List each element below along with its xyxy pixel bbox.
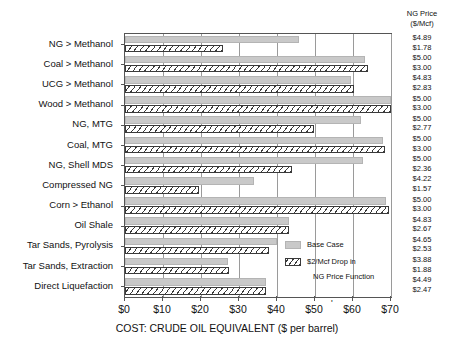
ng-price-cell-7: $4.22$1.57 xyxy=(392,174,452,194)
y-axis-label-2: UCG > Methanol xyxy=(0,73,118,93)
ng-price-cell-8: $5.00$3.00 xyxy=(392,195,452,215)
x-tick-label-50: $50 xyxy=(305,303,323,315)
ng-price-drop-12: $2.47 xyxy=(392,285,452,295)
bar-group-0 xyxy=(125,34,391,54)
y-tick-9 xyxy=(121,226,125,227)
ng-price-base-3: $5.00 xyxy=(392,94,452,104)
y-tick-10 xyxy=(121,246,125,247)
bar-group-3 xyxy=(125,95,391,115)
ng-price-base-1: $5.00 xyxy=(392,53,452,63)
x-tick-40 xyxy=(276,296,277,301)
y-tick-2 xyxy=(121,84,125,85)
ng-price-cell-0: $4.89$1.78 xyxy=(392,33,452,53)
legend-label-ng-drop-line2: NG Price Function xyxy=(313,272,397,282)
y-tick-0 xyxy=(121,44,125,45)
bar-group-8 xyxy=(125,196,391,216)
ng-price-cell-6: $5.00$2.36 xyxy=(392,154,452,174)
bar-group-5 xyxy=(125,135,391,155)
bar-ng-drop-6 xyxy=(125,166,292,174)
x-tick-label-20: $20 xyxy=(191,303,209,315)
x-tick-label-30: $30 xyxy=(229,303,247,315)
x-tick-30 xyxy=(238,296,239,301)
ng-price-drop-5: $3.00 xyxy=(392,144,452,154)
ng-price-drop-0: $1.78 xyxy=(392,43,452,53)
x-tick-60 xyxy=(352,296,353,301)
ng-price-base-0: $4.89 xyxy=(392,33,452,43)
y-axis-label-3: Wood > Methanol xyxy=(0,94,118,114)
bar-base-case-8 xyxy=(125,197,386,205)
x-axis-title: COST: CRUDE OIL EQUIVALENT ($ per barrel… xyxy=(0,322,454,334)
legend-label-base-case: Base Case xyxy=(307,240,344,250)
ng-price-drop-2: $2.83 xyxy=(392,83,452,93)
ng-price-base-8: $5.00 xyxy=(392,195,452,205)
legend-item-base-case: Base Case xyxy=(285,240,397,250)
bar-base-case-6 xyxy=(125,157,363,165)
ng-price-drop-6: $2.36 xyxy=(392,164,452,174)
y-axis-label-1: Coal > Methanol xyxy=(0,53,118,73)
ng-price-drop-7: $1.57 xyxy=(392,184,452,194)
ng-price-base-4: $5.00 xyxy=(392,114,452,124)
x-tick-10 xyxy=(162,296,163,301)
ng-price-cell-9: $4.83$2.67 xyxy=(392,215,452,235)
bar-ng-drop-10 xyxy=(125,247,269,255)
bar-base-case-3 xyxy=(125,96,391,104)
ng-price-base-10: $4.65 xyxy=(392,235,452,245)
bar-ng-drop-0 xyxy=(125,45,223,53)
bar-base-case-11 xyxy=(125,258,228,266)
ng-price-base-12: $4.49 xyxy=(392,275,452,285)
bar-base-case-10 xyxy=(125,238,277,246)
y-tick-5 xyxy=(121,145,125,146)
y-tick-11 xyxy=(121,266,125,267)
stray-tick-mark: ' xyxy=(331,298,333,308)
ng-price-cell-11: $3.88$1.88 xyxy=(392,255,452,275)
ng-price-base-7: $4.22 xyxy=(392,174,452,184)
y-tick-7 xyxy=(121,185,125,186)
y-axis-label-4: NG, MTG xyxy=(0,114,118,134)
x-tick-0 xyxy=(124,296,125,301)
y-axis-label-6: NG, Shell MDS xyxy=(0,154,118,174)
y-axis-label-5: Coal, MTG xyxy=(0,134,118,154)
x-tick-70 xyxy=(390,296,391,301)
ng-price-drop-10: $2.53 xyxy=(392,244,452,254)
bar-base-case-1 xyxy=(125,56,365,64)
bar-ng-drop-3 xyxy=(125,105,391,113)
x-tick-label-70: $70 xyxy=(381,303,399,315)
bar-ng-drop-9 xyxy=(125,226,289,234)
ng-price-drop-4: $2.77 xyxy=(392,123,452,133)
ng-price-column-header: NG Price ($/Mcf) xyxy=(392,9,452,29)
x-tick-label-60: $60 xyxy=(343,303,361,315)
y-tick-6 xyxy=(121,165,125,166)
y-tick-1 xyxy=(121,64,125,65)
ng-price-drop-3: $3.00 xyxy=(392,103,452,113)
chart-legend: Base Case $2/Mcf Drop in NG Price Functi… xyxy=(285,240,397,282)
ng-price-base-5: $5.00 xyxy=(392,134,452,144)
ng-price-base-6: $5.00 xyxy=(392,154,452,164)
ng-price-cell-4: $5.00$2.77 xyxy=(392,114,452,134)
y-axis-label-10: Tar Sands, Pyrolysis xyxy=(0,235,118,255)
ng-price-drop-9: $2.67 xyxy=(392,224,452,234)
bar-ng-drop-5 xyxy=(125,146,385,154)
x-axis-tick-labels: $0$10$20$30$40$50$60$70 xyxy=(0,303,454,319)
y-axis-category-labels: NG > MethanolCoal > MethanolUCG > Methan… xyxy=(0,33,118,295)
y-axis-label-7: Compressed NG xyxy=(0,174,118,194)
ng-price-base-11: $3.88 xyxy=(392,255,452,265)
x-tick-50 xyxy=(314,296,315,301)
y-tick-12 xyxy=(121,286,125,287)
ng-price-base-2: $4.83 xyxy=(392,73,452,83)
y-tick-4 xyxy=(121,125,125,126)
x-tick-label-0: $0 xyxy=(118,303,130,315)
ng-price-cell-2: $4.83$2.83 xyxy=(392,73,452,93)
ng-price-base-9: $4.83 xyxy=(392,215,452,225)
legend-label-ng-drop: $2/Mcf Drop in xyxy=(307,257,356,267)
bar-ng-drop-2 xyxy=(125,85,354,93)
ng-price-header-line1: NG Price xyxy=(392,9,452,19)
ng-price-cell-10: $4.65$2.53 xyxy=(392,235,452,255)
x-axis-ticks xyxy=(124,296,390,302)
cost-comparison-bar-chart: NG Price ($/Mcf) NG > MethanolCoal > Met… xyxy=(0,0,454,357)
bar-group-9 xyxy=(125,216,391,236)
bar-base-case-4 xyxy=(125,116,361,124)
ng-price-values-column: $4.89$1.78$5.00$3.00$4.83$2.83$5.00$3.00… xyxy=(392,33,452,295)
legend-item-ng-drop: $2/Mcf Drop in xyxy=(285,257,397,267)
bar-ng-drop-7 xyxy=(125,186,199,194)
bar-ng-drop-1 xyxy=(125,65,368,73)
